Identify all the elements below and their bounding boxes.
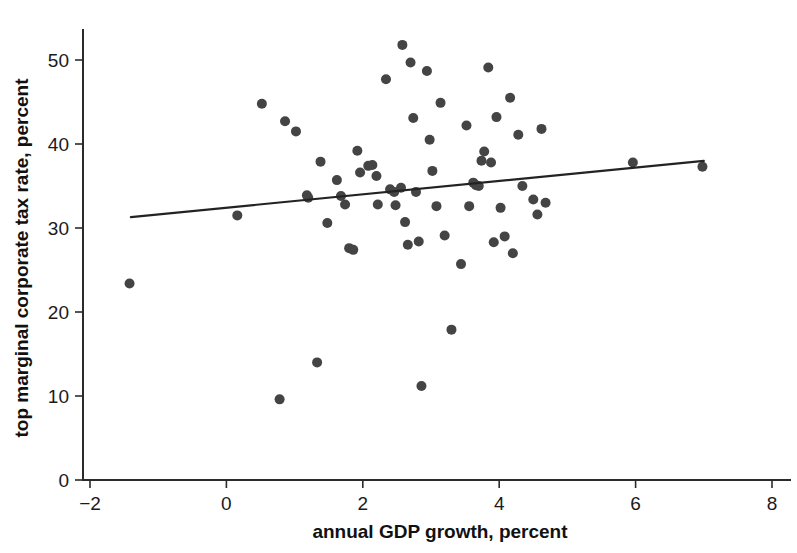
data-point bbox=[456, 259, 466, 269]
data-point bbox=[397, 40, 407, 50]
trend-line-layer bbox=[131, 161, 704, 217]
y-tick-label: 20 bbox=[48, 302, 69, 323]
data-point bbox=[403, 240, 413, 250]
data-point bbox=[340, 199, 350, 209]
data-point bbox=[496, 203, 506, 213]
data-point bbox=[381, 74, 391, 84]
data-point bbox=[422, 66, 432, 76]
data-point bbox=[312, 357, 322, 367]
data-point bbox=[406, 58, 416, 68]
x-axis: −202468 bbox=[79, 480, 790, 514]
data-point bbox=[500, 231, 510, 241]
data-point bbox=[427, 166, 437, 176]
data-point bbox=[373, 199, 383, 209]
data-point bbox=[303, 193, 313, 203]
data-point bbox=[232, 210, 242, 220]
data-point bbox=[505, 93, 515, 103]
data-point bbox=[483, 63, 493, 73]
data-point bbox=[532, 210, 542, 220]
data-point bbox=[348, 245, 358, 255]
x-tick-label: 2 bbox=[358, 493, 369, 514]
data-point bbox=[280, 116, 290, 126]
data-point bbox=[316, 157, 326, 167]
data-point bbox=[352, 146, 362, 156]
data-points-layer bbox=[125, 40, 708, 404]
data-point bbox=[355, 168, 365, 178]
y-tick-label: 50 bbox=[48, 50, 69, 71]
data-point bbox=[291, 126, 301, 136]
data-point bbox=[367, 160, 377, 170]
data-point bbox=[517, 181, 527, 191]
trend-line bbox=[131, 161, 704, 217]
data-point bbox=[628, 157, 638, 167]
data-point bbox=[528, 194, 538, 204]
data-point bbox=[476, 156, 486, 166]
data-point bbox=[479, 147, 489, 157]
data-point bbox=[697, 162, 707, 172]
y-tick-label: 40 bbox=[48, 134, 69, 155]
x-axis-title: annual GDP growth, percent bbox=[312, 521, 568, 542]
data-point bbox=[440, 231, 450, 241]
data-point bbox=[508, 248, 518, 258]
data-point bbox=[391, 200, 401, 210]
data-point bbox=[464, 201, 474, 211]
data-point bbox=[322, 218, 332, 228]
y-axis-title: top marginal corporate tax rate, percent bbox=[11, 78, 32, 438]
data-point bbox=[446, 325, 456, 335]
y-tick-label: 0 bbox=[58, 470, 69, 491]
data-point bbox=[425, 135, 435, 145]
data-point bbox=[491, 112, 501, 122]
y-tick-label: 10 bbox=[48, 386, 69, 407]
data-point bbox=[408, 113, 418, 123]
data-point bbox=[536, 124, 546, 134]
data-point bbox=[541, 198, 551, 208]
data-point bbox=[275, 394, 285, 404]
data-point bbox=[431, 201, 441, 211]
data-point bbox=[257, 99, 267, 109]
data-point bbox=[436, 98, 446, 108]
x-tick-label: 6 bbox=[630, 493, 641, 514]
data-point bbox=[461, 121, 471, 131]
data-point bbox=[125, 278, 135, 288]
data-point bbox=[486, 157, 496, 167]
scatter-plot-figure: 01020304050 −202468 annual GDP growth, p… bbox=[0, 0, 797, 553]
x-tick-label: 0 bbox=[221, 493, 232, 514]
x-tick-label: 8 bbox=[767, 493, 778, 514]
y-axis: 01020304050 bbox=[48, 30, 83, 491]
x-tick-label: 4 bbox=[494, 493, 505, 514]
chart-canvas: 01020304050 −202468 annual GDP growth, p… bbox=[0, 0, 797, 553]
x-tick-label: −2 bbox=[79, 493, 101, 514]
data-point bbox=[414, 236, 424, 246]
y-tick-label: 30 bbox=[48, 218, 69, 239]
data-point bbox=[400, 217, 410, 227]
data-point bbox=[489, 237, 499, 247]
data-point bbox=[332, 175, 342, 185]
data-point bbox=[513, 130, 523, 140]
data-point bbox=[371, 171, 381, 181]
data-point bbox=[416, 381, 426, 391]
